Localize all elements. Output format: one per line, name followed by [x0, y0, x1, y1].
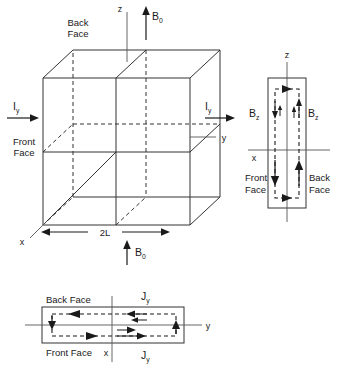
- top-view-left-down-arrow: [48, 316, 56, 330]
- side-view-bz-right-arrow: [296, 98, 302, 118]
- figure-canvas: Back Face Front Face z x y B0 B0 Iy Iy 2…: [0, 0, 337, 372]
- top-view-panel: Back Face Front Face x y Jy Jy: [25, 290, 211, 364]
- top-view-back-face-label: Back Face: [46, 294, 91, 305]
- cube-b0-bottom-arrow: [123, 240, 131, 265]
- cube-b0-top-symbol: B: [152, 10, 159, 22]
- cube-axis-y-label: y: [222, 133, 227, 143]
- top-view-jy-bottom-label: Jy: [141, 349, 150, 364]
- cube-b0-top-label: B0: [152, 10, 163, 24]
- top-view-axis-x-label: x: [104, 348, 109, 358]
- cube-iy-right-subscript: y: [208, 107, 212, 115]
- top-view-jy-top-subscript: y: [146, 297, 150, 305]
- side-view-panel: z x Bz Bz Front Face Back Face: [245, 50, 330, 222]
- side-view-bz-right-subscript: z: [315, 114, 319, 121]
- cube-front-face-label-line1: Front: [13, 136, 36, 147]
- cube-b0-top-arrow: [142, 6, 150, 40]
- top-view-right-up-arrow: [172, 320, 180, 334]
- cube-perspective-panel: Back Face Front Face z x y B0 B0 Iy Iy 2…: [7, 4, 235, 265]
- cube-axis-z-label: z: [118, 4, 123, 14]
- side-view-bz-right-label: Bz: [308, 107, 319, 121]
- cube-axis-x-label: x: [20, 237, 25, 247]
- cube-x-axis: [30, 221, 47, 238]
- top-view-top-arrowhead: [68, 310, 80, 318]
- cube-b0-bottom-subscript: 0: [142, 253, 146, 260]
- cube-2l-label: 2L: [100, 227, 111, 238]
- cube-mid-horizontal-plane: [43, 124, 220, 152]
- cube-diagonal-line: [43, 152, 116, 225]
- side-view-bz-right-tick: [292, 106, 296, 118]
- cube-back-face-label-line2: Face: [67, 28, 88, 39]
- side-view-back-face-line2: Face: [309, 184, 330, 195]
- side-view-bz-right-symbol: B: [308, 107, 315, 119]
- cube-back-face-label-line1: Back: [67, 17, 88, 28]
- side-view-back-face-line1: Back: [309, 172, 330, 183]
- side-view-axis-x-label: x: [252, 153, 257, 163]
- side-view-bz-left-symbol: B: [249, 107, 256, 119]
- cube-iy-right-label: Iy: [205, 100, 212, 115]
- top-view-jy-top-arrows: [126, 311, 147, 323]
- figure-root: Back Face Front Face z x y B0 B0 Iy Iy 2…: [0, 0, 337, 372]
- top-view-axis-y-label: y: [206, 321, 211, 331]
- cube-mid-vertical-plane: [116, 50, 146, 225]
- side-view-back-up-arrow: [295, 160, 303, 186]
- top-view-jy-bottom-subscript: y: [146, 356, 150, 364]
- cube-b0-bottom-symbol: B: [135, 246, 142, 258]
- cube-iy-left-label: Iy: [13, 100, 20, 115]
- side-view-bz-left-subscript: z: [256, 114, 260, 121]
- cube-front-face-label-line2: Face: [13, 147, 34, 158]
- side-view-front-face-line1: Front: [245, 172, 268, 183]
- cube-iy-left-arrow: [7, 114, 39, 122]
- top-view-jy-top-label: Jy: [141, 290, 150, 305]
- side-view-front-down-arrow: [271, 160, 279, 186]
- top-view-front-face-label: Front Face: [46, 347, 92, 358]
- side-view-axis-z-label: z: [285, 50, 290, 60]
- side-view-bz-left-label: Bz: [249, 107, 260, 121]
- side-view-bz-left-tick: [278, 105, 282, 116]
- top-view-bottom-arrowhead: [86, 332, 98, 340]
- top-view-jy-bottom-arrows: [117, 327, 146, 340]
- cube-b0-top-subscript: 0: [159, 17, 163, 24]
- cube-iy-left-subscript: y: [16, 107, 20, 115]
- cube-b0-bottom-label: B0: [135, 246, 146, 260]
- side-view-front-face-line2: Face: [245, 184, 266, 195]
- side-view-bz-left-arrow: [272, 101, 278, 119]
